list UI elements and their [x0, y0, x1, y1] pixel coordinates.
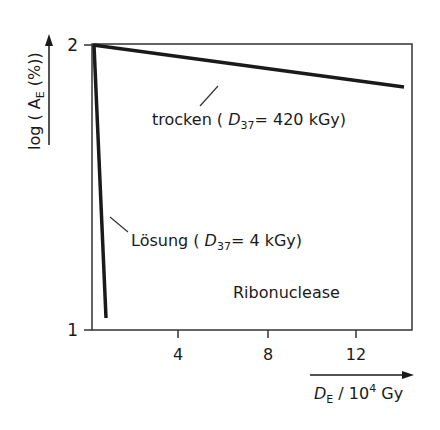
ytick-label-1: 1: [67, 320, 78, 340]
leader-trocken: [200, 86, 218, 106]
label-loesung: Lösung ( D37= 4 kGy): [131, 231, 302, 253]
y-axis-label: log ( AE (%)): [25, 52, 47, 150]
leader-loesung: [110, 217, 128, 232]
series-trocken: [93, 45, 404, 87]
chart: 2 1 4 8 12 trocken ( D37= 420 kGy) Lösun…: [0, 0, 440, 430]
x-axis-arrowhead-icon: [402, 371, 414, 379]
xtick-label-8: 8: [263, 345, 273, 364]
label-protein: Ribonuclease: [233, 283, 340, 302]
x-axis-label: DE / 104 Gy: [314, 382, 403, 406]
y-axis-arrowhead-icon: [45, 34, 53, 46]
series-loesung: [94, 45, 106, 318]
xtick-label-12: 12: [346, 345, 366, 364]
xtick-label-4: 4: [173, 345, 183, 364]
label-trocken: trocken ( D37= 420 kGy): [152, 110, 346, 132]
ytick-label-2: 2: [67, 35, 78, 55]
